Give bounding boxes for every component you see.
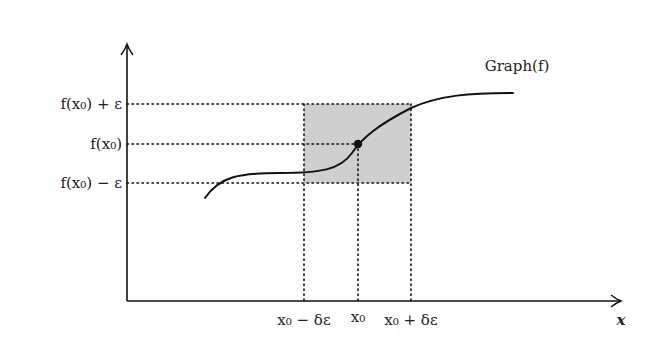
epsilon-delta-diagram: f(x₀) + ε f(x₀) f(x₀) − ε x₀ − δε x₀ x₀ … xyxy=(0,0,652,347)
y-label-upper: f(x₀) + ε xyxy=(60,95,122,113)
point-x0-fx0 xyxy=(354,140,362,148)
curve-label: Graph(f) xyxy=(485,57,550,75)
x-label-left: x₀ − δε xyxy=(277,311,331,329)
y-label-lower: f(x₀) − ε xyxy=(60,174,122,192)
y-label-middle: f(x₀) xyxy=(90,135,122,153)
x-axis-label: x xyxy=(616,311,627,329)
x-label-center: x₀ xyxy=(351,308,365,326)
x-label-right: x₀ + δε xyxy=(384,311,438,329)
